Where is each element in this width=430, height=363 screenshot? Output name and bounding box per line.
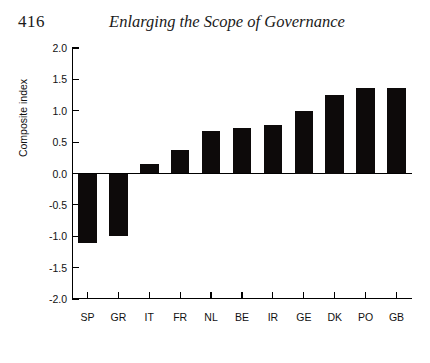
y-tick-mark [72,79,79,80]
x-tick-mark [303,292,304,299]
bar [356,88,375,174]
y-tick-label: -0.5 [49,199,67,211]
y-tick-mark [72,47,79,48]
x-tick-label: NL [204,311,217,323]
y-tick-label: 1.5 [52,73,67,85]
y-tick-label: 0.0 [52,168,67,180]
bar [233,128,252,174]
x-tick-mark [334,292,335,299]
x-tick-label: DK [327,311,342,323]
bar [202,131,221,173]
y-tick-label: 2.0 [52,42,67,54]
y-tick-label: -1.0 [49,230,67,242]
bar [295,111,314,174]
figure-page: 416 Enlarging the Scope of Governance Co… [0,0,430,363]
bar [140,164,159,173]
x-tick-mark [272,292,273,299]
x-tick-label: PO [358,311,373,323]
y-tick-mark [72,267,79,268]
bar [387,88,406,174]
x-tick-mark [241,292,242,299]
bar [78,174,97,243]
x-tick-label: IR [268,311,279,323]
bar [325,95,344,173]
bar [171,150,190,174]
y-tick-label: -1.5 [49,262,67,274]
x-tick-label: FR [173,311,187,323]
x-tick-label: IT [145,311,154,323]
x-tick-mark [180,292,181,299]
x-tick-mark [210,292,211,299]
x-tick-mark [365,292,366,299]
x-tick-label: GB [389,311,404,323]
x-tick-label: SP [80,311,94,323]
y-axis-label: Composite index [17,58,29,178]
x-tick-mark [87,292,88,299]
y-tick-label: 1.0 [52,105,67,117]
y-tick-mark [72,142,79,143]
y-tick-label: -2.0 [49,293,67,305]
bar [109,174,128,237]
y-tick-mark [72,110,79,111]
x-tick-label: GR [110,311,126,323]
y-tick-mark [72,298,79,299]
y-tick-label: 0.5 [52,136,67,148]
x-tick-label: BE [235,311,249,323]
x-tick-mark [396,292,397,299]
bar-chart: Composite index 2.01.51.00.50.0-0.5-1.0-… [0,0,430,363]
bar [264,125,283,174]
plot-area: 2.01.51.00.50.0-0.5-1.0-1.5-2.0SPGRITFRN… [72,48,412,299]
x-tick-mark [149,292,150,299]
x-tick-label: GE [296,311,311,323]
x-tick-mark [118,292,119,299]
